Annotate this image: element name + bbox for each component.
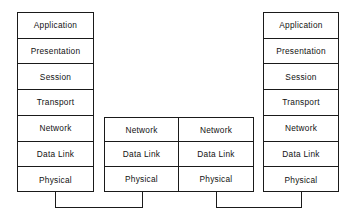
layer-network-left: Network bbox=[18, 116, 93, 142]
layer-presentation-left: Presentation bbox=[18, 39, 93, 65]
layer-label: Session bbox=[285, 72, 316, 82]
layer-label: Session bbox=[40, 72, 71, 82]
layer-label: Transport bbox=[282, 97, 319, 107]
left-protocol-stack: Application Presentation Session Transpo… bbox=[17, 12, 94, 192]
physical-medium-right-connector bbox=[216, 192, 302, 208]
layer-label: Data Link bbox=[197, 149, 234, 159]
relay-left-column: Network Data Link Physical bbox=[105, 118, 179, 191]
layer-label: Application bbox=[34, 20, 77, 30]
right-protocol-stack: Application Presentation Session Transpo… bbox=[263, 12, 339, 192]
layer-datalink-left: Data Link bbox=[18, 142, 93, 168]
layer-label: Data Link bbox=[123, 149, 160, 159]
layer-physical-relay-left: Physical bbox=[105, 167, 178, 191]
layer-physical-right: Physical bbox=[264, 167, 338, 193]
layer-label: Data Link bbox=[282, 149, 319, 159]
layer-network-right: Network bbox=[264, 116, 338, 142]
layer-datalink-relay-left: Data Link bbox=[105, 142, 178, 166]
layer-label: Data Link bbox=[37, 149, 74, 159]
layer-label: Network bbox=[39, 123, 71, 133]
layer-application-left: Application bbox=[18, 13, 93, 39]
layer-label: Physical bbox=[125, 174, 158, 184]
relay-right-column: Network Data Link Physical bbox=[179, 118, 253, 191]
layer-label: Physical bbox=[285, 175, 318, 185]
layer-network-relay-right: Network bbox=[179, 118, 253, 142]
layer-physical-left: Physical bbox=[18, 167, 93, 193]
layer-transport-right: Transport bbox=[264, 90, 338, 116]
layer-session-right: Session bbox=[264, 64, 338, 90]
layer-label: Network bbox=[125, 125, 157, 135]
layer-presentation-right: Presentation bbox=[264, 39, 338, 65]
osi-layer-diagram: Application Presentation Session Transpo… bbox=[0, 0, 355, 223]
layer-datalink-right: Data Link bbox=[264, 142, 338, 168]
layer-label: Transport bbox=[37, 97, 74, 107]
layer-label: Network bbox=[200, 125, 232, 135]
layer-session-left: Session bbox=[18, 64, 93, 90]
layer-label: Presentation bbox=[276, 46, 326, 56]
physical-medium-left-connector bbox=[55, 192, 143, 208]
layer-label: Application bbox=[279, 20, 322, 30]
layer-label: Physical bbox=[39, 175, 72, 185]
relay-columns: Network Data Link Physical Network Data … bbox=[105, 118, 253, 191]
layer-label: Presentation bbox=[31, 46, 81, 56]
layer-application-right: Application bbox=[264, 13, 338, 39]
layer-label: Physical bbox=[200, 174, 233, 184]
layer-physical-relay-right: Physical bbox=[179, 167, 253, 191]
layer-transport-left: Transport bbox=[18, 90, 93, 116]
layer-network-relay-left: Network bbox=[105, 118, 178, 142]
intermediate-relay-node: Network Data Link Physical Network Data … bbox=[104, 117, 254, 192]
layer-datalink-relay-right: Data Link bbox=[179, 142, 253, 166]
layer-label: Network bbox=[285, 123, 317, 133]
